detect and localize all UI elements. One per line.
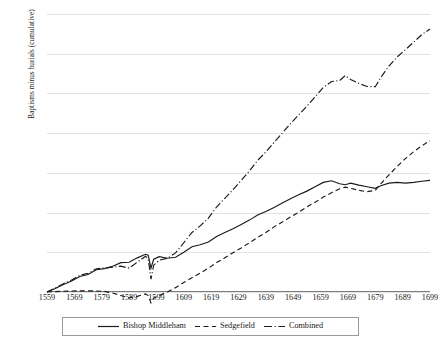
solid-line-key — [98, 323, 119, 330]
x-axis-tick-label: 1689 — [394, 294, 410, 302]
x-axis-tick-label: 1599 — [148, 294, 164, 302]
legend-item-sedgefield: Sedgefield — [195, 322, 255, 330]
x-axis-tick-labels: 1559156915791589159916091619162916391649… — [47, 294, 430, 310]
legend-item-combined: Combined — [264, 322, 323, 330]
legend-label-combined: Combined — [289, 322, 323, 330]
x-axis-tick-label: 1579 — [94, 294, 110, 302]
x-axis-tick-label: 1629 — [230, 294, 246, 302]
x-axis-tick-label: 1679 — [367, 294, 383, 302]
dash-dot-line-key — [264, 323, 285, 330]
legend-label-bishop-middleham: Bishop Middleham — [123, 322, 186, 330]
series-line-sedgefield — [47, 141, 430, 303]
series-line-combined — [47, 29, 430, 292]
x-axis-tick-label: 1559 — [39, 294, 55, 302]
x-axis-tick-label: 1669 — [340, 294, 356, 302]
dashed-line-key — [195, 323, 216, 330]
x-axis-tick-label: 1569 — [66, 294, 82, 302]
series-line-bishop-middleham — [47, 180, 430, 292]
x-axis-tick-label: 1699 — [422, 294, 438, 302]
x-axis-tick-label: 1619 — [203, 294, 219, 302]
x-axis-tick-label: 1659 — [312, 294, 328, 302]
x-axis-tick-label: 1589 — [121, 294, 137, 302]
chart-legend: Bishop Middleham Sedgefield Combined — [62, 317, 359, 336]
legend-item-bishop-middleham: Bishop Middleham — [98, 322, 186, 330]
plot-area — [47, 14, 430, 292]
x-axis-tick-label: 1649 — [285, 294, 301, 302]
series-lines — [47, 14, 430, 292]
x-axis-tick-label: 1639 — [258, 294, 274, 302]
x-axis-tick-label: 1609 — [176, 294, 192, 302]
legend-label-sedgefield: Sedgefield — [220, 322, 255, 330]
